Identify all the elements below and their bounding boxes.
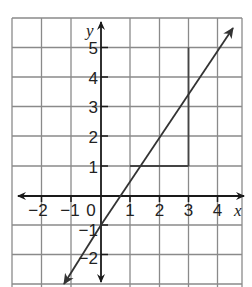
x-tick-labels: −2 −1 0 1 2 3 4 <box>28 201 222 220</box>
y-axis-label: y <box>84 21 94 40</box>
svg-text:−2: −2 <box>28 201 47 220</box>
svg-text:4: 4 <box>89 69 98 88</box>
grid <box>12 18 242 287</box>
svg-text:0: 0 <box>86 201 95 220</box>
svg-text:3: 3 <box>89 98 98 117</box>
svg-text:3: 3 <box>184 201 193 220</box>
x-axis-label: x <box>233 201 242 220</box>
coordinate-plane: y x 5 4 3 2 1 −1 −2 −2 −1 0 1 2 3 4 <box>0 0 252 287</box>
svg-text:1: 1 <box>125 201 134 220</box>
svg-text:−1: −1 <box>60 201 79 220</box>
svg-text:2: 2 <box>155 201 164 220</box>
svg-text:5: 5 <box>89 39 98 58</box>
svg-text:−2: −2 <box>79 249 98 268</box>
svg-text:1: 1 <box>89 158 98 177</box>
svg-text:−1: −1 <box>79 221 98 240</box>
svg-text:4: 4 <box>213 201 222 220</box>
svg-text:2: 2 <box>89 128 98 147</box>
y-tick-labels: 5 4 3 2 1 −1 −2 <box>79 39 98 268</box>
